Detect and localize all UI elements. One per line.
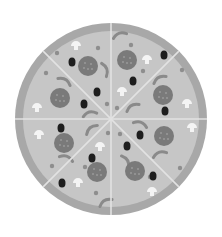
pepperoni-spot xyxy=(130,62,132,64)
pepperoni-icon xyxy=(154,126,174,146)
herb-icon xyxy=(83,165,87,169)
pepperoni-spot xyxy=(130,172,132,174)
pizza-illustration xyxy=(0,0,222,237)
pepperoni-spot xyxy=(123,56,125,58)
herb-icon xyxy=(44,71,48,75)
pepperoni-spot xyxy=(93,168,95,170)
pepperoni-spot xyxy=(59,100,61,102)
pepperoni-spot xyxy=(67,145,69,147)
pepperoni-icon xyxy=(87,162,107,182)
pepperoni-spot xyxy=(66,140,68,142)
pepperoni-spot xyxy=(60,139,62,141)
pepperoni-spot xyxy=(63,145,65,147)
olive-icon xyxy=(162,107,169,116)
pepperoni-spot xyxy=(138,173,140,175)
herb-icon xyxy=(55,51,59,55)
pepperoni-spot xyxy=(163,138,165,140)
pepperoni-spot xyxy=(122,61,124,63)
olive-icon xyxy=(69,58,76,67)
pepperoni-spot xyxy=(162,97,164,99)
olive-icon xyxy=(81,100,88,109)
pepperoni-spot xyxy=(92,173,94,175)
pepperoni-icon xyxy=(50,88,70,108)
pepperoni-spot xyxy=(159,91,161,93)
olive-icon xyxy=(137,131,144,140)
pepperoni-spot xyxy=(167,138,169,140)
pepperoni-spot xyxy=(63,100,65,102)
herb-icon xyxy=(50,164,54,168)
herb-icon xyxy=(118,132,122,136)
pepperoni-spot xyxy=(165,92,167,94)
olive-icon xyxy=(58,124,65,133)
olive-icon xyxy=(94,88,101,97)
herb-icon xyxy=(96,46,100,50)
pepperoni-spot xyxy=(160,132,162,134)
olive-icon xyxy=(150,172,157,181)
herb-icon xyxy=(115,106,119,110)
pepperoni-spot xyxy=(159,137,161,139)
pepperoni-icon xyxy=(153,85,173,105)
pepperoni-spot xyxy=(87,68,89,70)
pepperoni-icon xyxy=(78,56,98,76)
pepperoni-spot xyxy=(96,174,98,176)
pepperoni-spot xyxy=(134,173,136,175)
pepperoni-spot xyxy=(166,97,168,99)
pepperoni-spot xyxy=(90,63,92,65)
olive-icon xyxy=(124,142,131,151)
pepperoni-spot xyxy=(91,68,93,70)
olive-icon xyxy=(89,154,96,163)
olive-icon xyxy=(130,77,137,86)
pepperoni-spot xyxy=(99,169,101,171)
herb-icon xyxy=(141,69,145,73)
pepperoni-spot xyxy=(84,62,86,64)
pepperoni-spot xyxy=(158,96,160,98)
pepperoni-spot xyxy=(83,67,85,69)
pepperoni-spot xyxy=(137,168,139,170)
herb-icon xyxy=(180,68,184,72)
olive-icon xyxy=(59,179,66,188)
pepperoni-icon xyxy=(117,50,137,70)
pepperoni-spot xyxy=(129,57,131,59)
pepperoni-spot xyxy=(56,94,58,96)
slice-cut-lines xyxy=(15,23,207,215)
pepperoni-spot xyxy=(131,167,133,169)
pepperoni-spot xyxy=(62,95,64,97)
pepperoni-spot xyxy=(55,99,57,101)
herb-icon xyxy=(94,191,98,195)
pepperoni-spot xyxy=(166,133,168,135)
pepperoni-spot xyxy=(59,144,61,146)
olive-icon xyxy=(161,51,168,60)
pepperoni-icon xyxy=(54,133,74,153)
herb-icon xyxy=(105,102,109,106)
herb-icon xyxy=(106,131,110,135)
herb-icon xyxy=(178,166,182,170)
pepperoni-spot xyxy=(126,62,128,64)
pepperoni-spot xyxy=(100,174,102,176)
pepperoni-icon xyxy=(125,161,145,181)
herb-icon xyxy=(129,43,133,47)
